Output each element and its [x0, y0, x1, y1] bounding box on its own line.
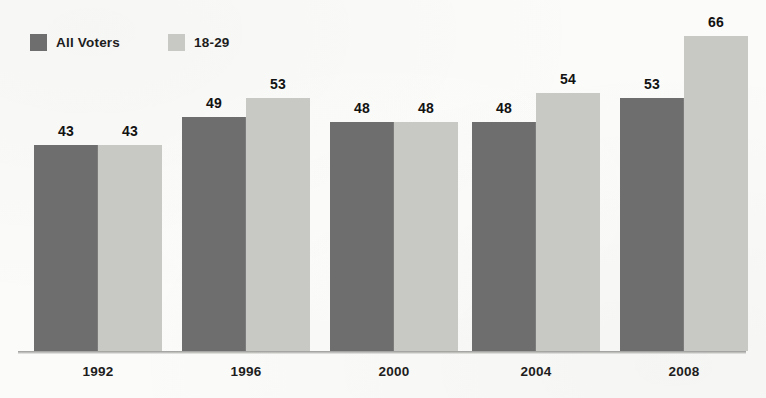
plot-area: 4343199249531996484820004854200453662008 — [0, 0, 766, 398]
bar-value-label-2008-18-29: 66 — [684, 14, 748, 30]
bar-value-label-2000-18-29: 48 — [394, 100, 458, 116]
bar-value-label-2004-18-29: 54 — [536, 71, 600, 87]
bar-value-label-2000-all-voters: 48 — [330, 100, 394, 116]
bar-1996-18-29 — [246, 98, 310, 351]
x-axis-label-1996: 1996 — [182, 364, 310, 379]
bar-2008-all-voters — [620, 98, 684, 351]
bar-1992-all-voters — [34, 145, 98, 351]
bar-2000-all-voters — [330, 122, 394, 351]
bar-value-label-1996-all-voters: 49 — [182, 95, 246, 111]
chart-container: All Voters 18-29 43431992495319964848200… — [0, 0, 766, 398]
x-axis-baseline — [18, 351, 746, 354]
x-axis-label-2004: 2004 — [472, 364, 600, 379]
bar-2008-18-29 — [684, 36, 748, 351]
bar-value-label-1996-18-29: 53 — [246, 76, 310, 92]
x-axis-label-1992: 1992 — [34, 364, 162, 379]
bar-2000-18-29 — [394, 122, 458, 351]
x-axis-label-2008: 2008 — [620, 364, 748, 379]
bar-2004-18-29 — [536, 93, 600, 351]
bar-value-label-1992-all-voters: 43 — [34, 123, 98, 139]
bar-value-label-1992-18-29: 43 — [98, 123, 162, 139]
bar-1992-18-29 — [98, 145, 162, 351]
x-axis-label-2000: 2000 — [330, 364, 458, 379]
bar-value-label-2004-all-voters: 48 — [472, 100, 536, 116]
bar-1996-all-voters — [182, 117, 246, 351]
bar-value-label-2008-all-voters: 53 — [620, 76, 684, 92]
bar-2004-all-voters — [472, 122, 536, 351]
